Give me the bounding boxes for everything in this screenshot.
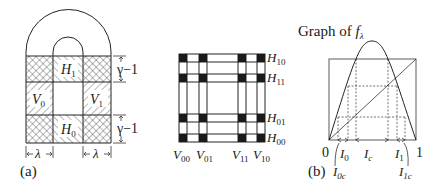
axis-one: 1 [416,145,423,160]
label-v00: V00 [173,147,190,164]
panel-b: Graph of fλ 0 1 I0 Ic [298,23,423,181]
dimension-gamma-bottom: γ−1 [113,115,138,143]
leader-i0c [335,143,339,166]
label-v10: V10 [253,147,270,164]
label-h00: H00 [266,130,286,147]
svg-text:γ−1: γ−1 [116,121,138,136]
svg-text:λ: λ [34,146,41,161]
panel-a: H1 H0 V0 V1 γ−1 γ−1 [20,10,138,181]
intersection-blocks [179,54,265,142]
label-h10: H10 [266,50,286,67]
figure: H1 H0 V0 V1 γ−1 γ−1 [0,0,438,186]
label-v11: V11 [232,147,249,164]
panel-b-label: (b) [308,163,326,180]
axis-zero: 0 [322,145,329,160]
label-i0: I0 [339,146,349,163]
function-curve [329,41,416,140]
dashed-guides [338,59,405,140]
label-i0c: I0c [332,164,346,181]
label-v01: V01 [196,147,213,164]
dimension-lambda-left: λ [26,146,53,161]
panel-a-label: (a) [20,163,37,180]
label-h01: H01 [266,110,285,127]
leader-i1c [404,143,408,166]
label-i1c: I1c [398,164,412,181]
label-h11: H11 [266,70,285,87]
svg-text:λ: λ [92,146,99,161]
dimension-lambda-right: λ [83,146,111,161]
dimension-gamma-top: γ−1 [113,56,138,82]
label-i1: I1 [394,146,404,163]
graph-title: Graph of fλ [298,23,364,41]
label-ic: Ic [363,146,372,163]
svg-text:γ−1: γ−1 [116,62,138,77]
panel-grid: V00 V01 V11 V10 H10 H11 H01 H00 [173,50,286,164]
